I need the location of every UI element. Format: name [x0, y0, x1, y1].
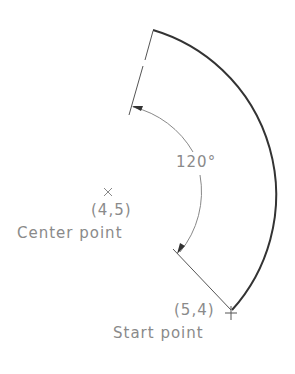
arc-diagram [0, 0, 295, 374]
center-point-x-icon [104, 188, 112, 196]
arrowhead-top [132, 106, 143, 111]
top-extension-line [145, 31, 153, 60]
angle-label: 120° [176, 155, 216, 170]
start-point-label: Start point [113, 326, 204, 341]
arrowhead-bottom [177, 243, 185, 254]
dimension-arc-upper [133, 107, 193, 152]
start-point-plus-icon [225, 306, 237, 320]
center-point-label: Center point [17, 226, 123, 241]
center-coordinate-label: (4,5) [91, 203, 132, 218]
start-coordinate-label: (5,4) [174, 303, 215, 318]
dimension-arc-lower [180, 175, 201, 252]
